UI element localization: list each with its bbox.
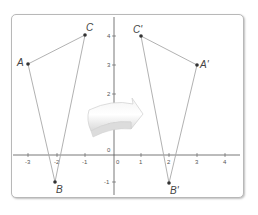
x-tick-label: 0 [116,159,120,165]
x-tick-label: 4 [223,159,227,165]
curved-right-arrow-icon [88,98,143,137]
x-axis: -3 -2 -1 0 1 2 3 4 [13,153,240,165]
x-tick-label: 2 [167,159,171,165]
label-c-prime: C' [133,24,143,35]
label-c: C [86,22,94,33]
coordinate-plane: -3 -2 -1 0 1 2 3 4 4 3 2 1 0 -1 A C B [0,0,258,215]
x-tick-label: 3 [195,159,199,165]
label-a: A [16,57,24,68]
point-c [83,33,87,37]
origin-label: 0 [107,147,111,153]
point-a [26,62,30,66]
triangle-abc-prime: A' C' B' [133,24,210,196]
x-tick-label: -1 [82,159,88,165]
y-tick-label: 4 [107,33,111,39]
triangle-abc: A C B [16,22,94,195]
y-tick-label: 2 [107,91,111,97]
point-a-prime [195,63,199,67]
label-a-prime: A' [199,59,210,70]
label-b-prime: B' [170,185,180,196]
x-tick-label: -3 [25,159,31,165]
label-b: B [56,184,63,195]
x-tick-label: 1 [139,159,143,165]
y-tick-label: -1 [104,179,110,185]
y-tick-label: 3 [107,62,111,68]
